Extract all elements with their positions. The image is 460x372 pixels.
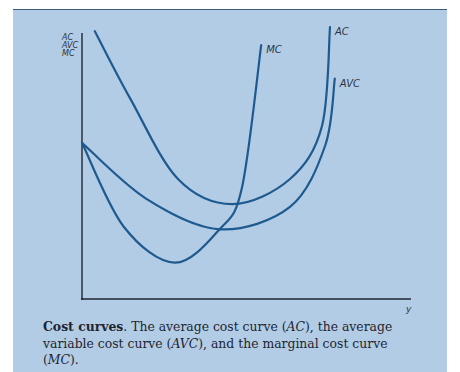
caption-ac: AC xyxy=(287,319,305,334)
cost-curves-chart: AC AVC MC y ACAVCMC xyxy=(0,0,460,372)
caption-text-1: . The average cost curve ( xyxy=(123,319,286,334)
caption-text-4: ). xyxy=(70,352,79,367)
curve-label-ac: AC xyxy=(334,26,349,37)
y-axis-label-mc: MC xyxy=(62,49,75,58)
caption-mc: MC xyxy=(48,352,70,367)
curve-labels: ACAVCMC xyxy=(266,26,360,89)
curves xyxy=(82,27,335,263)
x-axis-label: y xyxy=(405,304,412,314)
curve-avc xyxy=(82,79,335,230)
curve-mc xyxy=(82,45,261,263)
caption-avc: AVC xyxy=(171,336,198,351)
caption-title: Cost curves xyxy=(43,319,123,334)
curve-label-avc: AVC xyxy=(339,78,360,89)
curve-ac xyxy=(95,27,330,204)
curve-label-mc: MC xyxy=(266,44,282,55)
figure-caption: Cost curves. The average cost curve (AC)… xyxy=(43,319,423,369)
